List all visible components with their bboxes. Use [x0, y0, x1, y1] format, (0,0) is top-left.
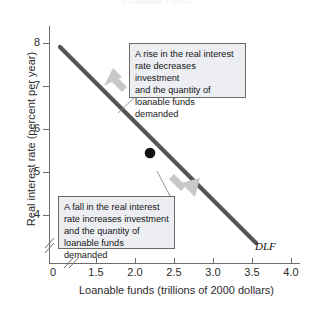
x-tick-label-1.5: 1.5	[79, 266, 113, 278]
x-axis-line	[49, 263, 300, 264]
rise-annotation-line-4: loanable funds demanded	[135, 96, 240, 120]
x-tick-2.5	[174, 258, 175, 263]
y-axis-title: Real interest rate (percent per year)	[25, 24, 37, 254]
fall-annotation-leader	[157, 171, 170, 196]
x-axis-title: Loanable funds (trillions of 2000 dollar…	[49, 284, 304, 296]
x-tick-label-3.0: 3.0	[196, 266, 230, 278]
equilibrium-point	[145, 148, 156, 159]
x-tick-label-3.5: 3.5	[235, 266, 269, 278]
x-tick-label-4.0: 4.0	[274, 266, 308, 278]
x-origin-label: 0	[36, 266, 70, 278]
dlf-curve-label: DLF	[255, 240, 276, 252]
fall-annotation-box: A fall in the real interest rate increas…	[58, 196, 175, 249]
rise-annotation-line-3: and the quantity of	[135, 84, 240, 96]
x-tick-label-2.0: 2.0	[118, 266, 152, 278]
y-axis-line	[49, 26, 50, 263]
y-tick-6	[43, 129, 49, 130]
y-tick-5	[43, 172, 49, 173]
fall-annotation-line-3: and the quantity of	[64, 225, 169, 237]
fall-annotation-line-2: rate increases investment	[64, 213, 169, 225]
y-tick-8	[43, 43, 49, 44]
down-right-arrow-icon	[169, 174, 200, 197]
fall-annotation-line-4: loanable funds demanded	[64, 237, 169, 261]
x-tick-3.0	[213, 258, 214, 263]
figure-container: Loanable Funds	[0, 0, 315, 310]
rise-annotation-line-2: rate decreases investment	[135, 60, 240, 84]
rise-annotation-box: A rise in the real interest rate decreas…	[129, 43, 246, 98]
fall-annotation-line-1: A fall in the real interest	[64, 201, 169, 213]
y-tick-4	[43, 215, 49, 216]
y-tick-7	[43, 86, 49, 87]
up-left-arrow-icon	[104, 68, 127, 92]
rise-annotation-line-1: A rise in the real interest	[135, 48, 240, 60]
x-tick-3.5	[252, 258, 253, 263]
x-tick-4.0	[291, 258, 292, 263]
x-tick-label-2.5: 2.5	[157, 266, 191, 278]
